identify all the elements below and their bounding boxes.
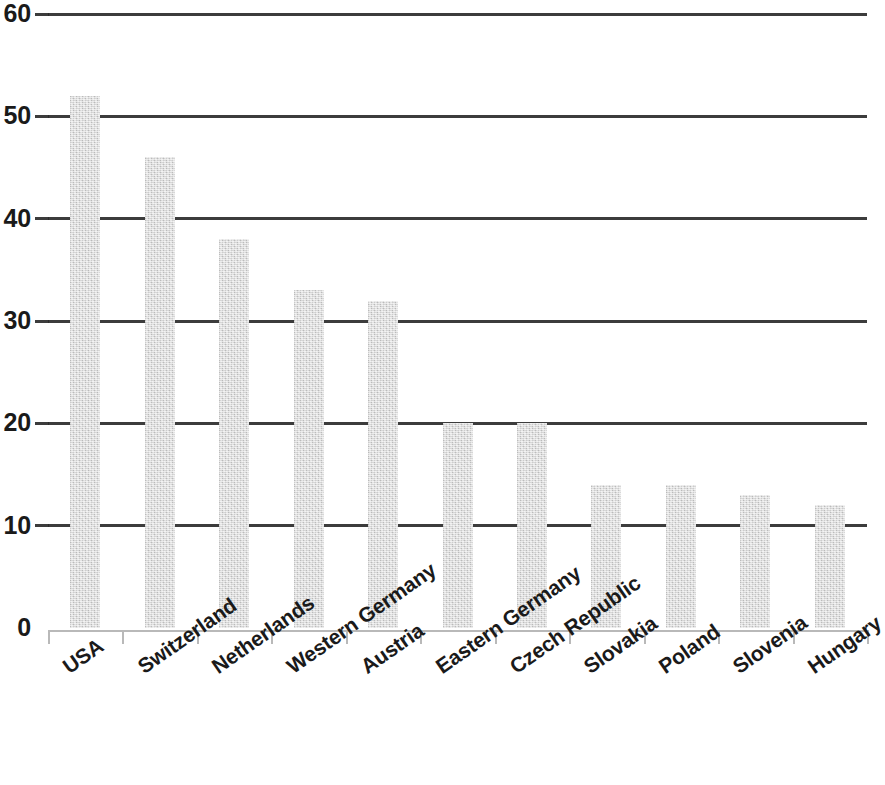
x-axis-tick-mark — [867, 630, 869, 644]
bar — [219, 239, 249, 628]
bar — [815, 505, 845, 628]
y-axis-tick-mark — [35, 320, 49, 323]
x-axis-tick-mark — [48, 630, 50, 644]
bar — [368, 301, 398, 628]
x-axis-category-label: Slovakia — [580, 612, 661, 677]
y-axis-tick-label: 60 — [0, 1, 31, 26]
x-axis-category-label: Austria — [357, 619, 427, 677]
y-axis-tick-label: 10 — [0, 513, 31, 538]
y-axis-tick-label: 30 — [0, 308, 31, 333]
bar — [740, 495, 770, 628]
y-axis-tick-label: 50 — [0, 103, 31, 128]
y-axis-tick-mark — [35, 217, 49, 220]
x-axis-tick-mark — [420, 630, 422, 644]
x-axis-tick-mark — [197, 630, 199, 644]
x-axis-tick-mark — [793, 630, 795, 644]
bar — [294, 290, 324, 628]
y-axis-tick-mark — [35, 115, 49, 118]
x-axis-tick-mark — [271, 630, 273, 644]
x-axis-category-label: Western Germany — [283, 559, 440, 677]
gridline — [48, 320, 867, 323]
y-axis-tick-mark — [35, 422, 49, 425]
bar — [666, 485, 696, 628]
gridline — [48, 217, 867, 220]
gridline — [48, 115, 867, 118]
gridline — [48, 422, 867, 425]
y-axis-tick-mark — [35, 13, 49, 16]
y-axis-tick-label: 40 — [0, 206, 31, 231]
x-axis-tick-mark — [644, 630, 646, 644]
x-axis-tick-mark — [718, 630, 720, 644]
bar — [70, 96, 100, 628]
y-axis-tick-label: 0 — [0, 615, 31, 640]
x-axis-tick-mark — [495, 630, 497, 644]
gridline — [48, 524, 867, 527]
y-axis-tick-label: 20 — [0, 410, 31, 435]
gridline — [48, 13, 867, 16]
x-axis-category-label: Slovenia — [729, 611, 810, 677]
bar — [517, 423, 547, 628]
x-axis-tick-mark — [346, 630, 348, 644]
x-axis-category-label: USA — [59, 635, 107, 677]
x-axis-category-label: Poland — [655, 620, 723, 677]
x-axis-tick-mark — [122, 630, 124, 644]
x-axis-category-label: Eastern Germany — [431, 562, 583, 677]
x-axis-category-label: Switzerland — [134, 594, 240, 677]
x-axis-category-label: Czech Republic — [506, 572, 644, 677]
y-axis-tick-mark — [35, 524, 49, 527]
bar — [443, 423, 473, 628]
bar — [591, 485, 621, 628]
bar — [145, 157, 175, 628]
x-axis-category-label: Netherlands — [208, 591, 318, 677]
x-axis-category-label: Hungary — [804, 612, 885, 677]
x-axis-tick-mark — [569, 630, 571, 644]
x-axis-line — [48, 630, 867, 632]
